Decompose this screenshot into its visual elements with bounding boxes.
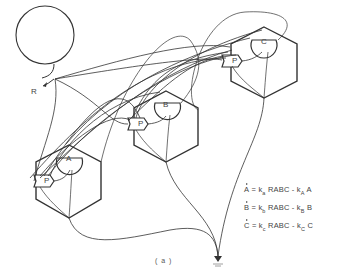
source-circle: [16, 6, 74, 64]
sink-arrow-icon: [214, 256, 222, 262]
node-label-a: A: [66, 154, 71, 163]
port-label-b: P: [138, 119, 143, 128]
node-label-c: C: [261, 37, 267, 46]
port-label-c: P: [232, 56, 237, 65]
source-label: R: [31, 87, 37, 96]
diagram-canvas: R C B A P P P A = ka RABC - kA A B = kb …: [0, 0, 344, 276]
equation-b: B = kb RABC - kB B: [244, 203, 312, 214]
equation-a: A = ka RABC - kA A: [244, 185, 312, 196]
port-label-a: P: [44, 176, 49, 185]
equation-c: C = kc RABC - kC C: [244, 221, 313, 232]
network-graphic: [0, 0, 344, 276]
figure-caption: ( a ): [155, 257, 172, 264]
node-label-b: B: [163, 100, 168, 109]
